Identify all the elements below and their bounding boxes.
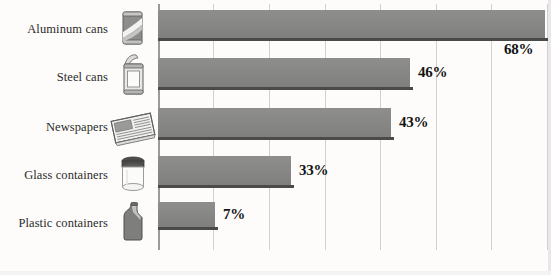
scan-edge-bottom (0, 271, 551, 275)
table-row: Aluminum cans 68% (0, 6, 551, 52)
table-row: Glass containers 33% (0, 152, 551, 198)
value-label-plastic-containers: 7% (223, 206, 245, 223)
value-label-steel-cans: 46% (418, 64, 447, 81)
glass-jar-icon (112, 152, 154, 196)
category-label-plastic-containers: Plastic containers (4, 216, 108, 231)
category-label-steel-cans: Steel cans (4, 70, 108, 85)
newspaper-icon (108, 108, 158, 152)
table-row: Steel cans 46% (0, 54, 551, 100)
category-label-aluminum-cans: Aluminum cans (4, 22, 108, 37)
bar-steel-cans (158, 58, 410, 87)
bar-aluminum-cans (158, 10, 545, 38)
bar-newspapers (158, 108, 391, 137)
value-label-newspapers: 43% (399, 114, 428, 131)
recycling-rate-bar-chart: Aluminum cans 68% (0, 0, 551, 275)
table-row: Plastic containers 7% (0, 198, 551, 244)
table-row: Newspapers (0, 104, 551, 150)
category-label-glass-containers: Glass containers (4, 168, 108, 183)
bar-plastic-containers (158, 202, 215, 227)
plastic-jug-icon (112, 200, 154, 244)
category-label-newspapers: Newspapers (4, 120, 108, 135)
bar-glass-containers (158, 156, 291, 185)
steel-can-icon (112, 52, 154, 96)
value-label-glass-containers: 33% (299, 162, 328, 179)
aluminum-can-icon (112, 8, 154, 52)
